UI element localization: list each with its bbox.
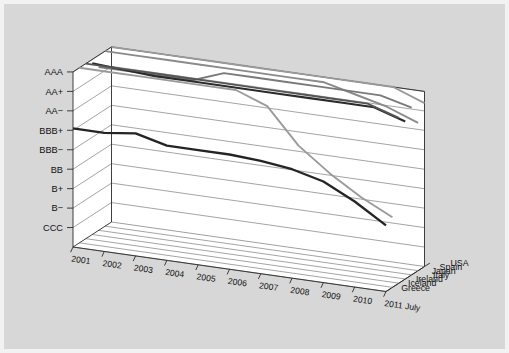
x-tick-label-2009: 2009 <box>321 289 342 302</box>
y-tick-label-CCC: CCC <box>43 223 63 233</box>
x-tick-label-2007: 2007 <box>259 280 280 293</box>
y-tick-label-B: B− <box>52 203 64 213</box>
x-tick-mark <box>133 256 135 261</box>
x-tick-mark <box>102 251 104 256</box>
x-tick-label-2002: 2002 <box>102 258 123 271</box>
y-tick-label-AAA: AAA <box>45 67 64 77</box>
x-tick-label-2004: 2004 <box>165 267 186 280</box>
x-tick-label-2003: 2003 <box>133 262 154 275</box>
y-tick-label-AA: AA− <box>45 106 63 116</box>
left-wall-face <box>73 47 112 247</box>
y-tick-label-BBB: BBB− <box>39 145 63 155</box>
x-tick-label-2001: 2001 <box>71 254 92 267</box>
x-tick-label-2005: 2005 <box>196 271 217 284</box>
z-tick-mark <box>425 263 430 266</box>
x-tick-mark <box>165 260 167 265</box>
z-tick-label-Greece: Greece <box>401 283 430 293</box>
x-tick-mark <box>321 283 323 288</box>
x-tick-mark <box>290 278 292 283</box>
y-tick-label-AA+: AA+ <box>45 87 63 97</box>
y-tick-label-B+: B+ <box>52 184 64 194</box>
x-tick-mark <box>71 247 73 252</box>
x-tick-mark <box>227 269 229 274</box>
y-tick-label-BB: BB <box>51 165 63 175</box>
x-tick-label-2006: 2006 <box>227 276 248 289</box>
x-tick-label-2011-July: 2011 July <box>384 298 422 313</box>
y-tick-label-BBB+: BBB+ <box>39 126 63 136</box>
credit-rating-3d-line-chart: AAAAA+AA−BBB+BBB−BBB+B−CCC 2001200220032… <box>0 0 509 353</box>
chart-figure: AAAAA+AA−BBB+BBB−BBB+B−CCC 2001200220032… <box>0 0 509 353</box>
x-tick-label-2008: 2008 <box>290 285 311 298</box>
x-tick-mark <box>384 292 386 297</box>
x-tick-label-2010: 2010 <box>352 294 373 307</box>
x-tick-mark <box>258 274 260 279</box>
x-tick-mark <box>352 287 354 292</box>
x-tick-mark <box>196 265 198 270</box>
